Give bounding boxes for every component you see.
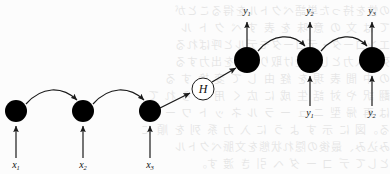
feedback-label-y2-sub: 2 — [373, 112, 377, 119]
input-label-x2-sub: 2 — [84, 164, 88, 171]
context-in-arrow — [160, 93, 190, 108]
input-label-x2: x2 — [78, 159, 87, 171]
input-labels: x1 x2 x3 — [11, 159, 154, 171]
feedback-label-y1: y1 — [305, 107, 314, 119]
context-node-label: H — [198, 82, 209, 96]
feedback-label-y2: y2 — [367, 107, 376, 119]
encoder-nodes — [5, 100, 161, 122]
encoder-node-3 — [139, 100, 161, 122]
context-node-H: H — [192, 78, 214, 100]
decoder-node-3 — [359, 47, 385, 73]
output-label-y2-sub: 2 — [311, 10, 315, 17]
feedback-label-y1-sub: 1 — [311, 112, 314, 119]
decoder-node-2 — [297, 47, 323, 73]
encoder-node-2 — [72, 100, 94, 122]
encoder-input-arrows — [16, 126, 150, 158]
decoder-node-1 — [234, 47, 260, 73]
recurrent-arrow-dec1-dec2 — [258, 37, 305, 51]
figure-canvas: の性を持った単語ベクトルを得ることが て は 文 の 意 味 を 表 す ベ ク… — [0, 0, 390, 174]
recurrent-arrow-enc2-enc3 — [93, 90, 144, 104]
recurrent-arrow-dec2-dec3 — [321, 37, 367, 51]
output-labels: y1 y2 y3 — [242, 5, 376, 17]
output-label-y1-sub: 1 — [248, 10, 251, 17]
encoder-node-1 — [5, 100, 27, 122]
seq2seq-diagram: H x1 x2 x3 y1 y2 — [0, 0, 390, 174]
feedback-labels: y1 y2 — [305, 107, 376, 119]
input-label-x3-sub: 3 — [150, 164, 155, 171]
recurrent-arrow-enc1-enc2 — [26, 90, 77, 104]
decoder-feedback-arrows — [310, 76, 372, 106]
context-out-arrow — [212, 68, 236, 82]
output-label-y1: y1 — [242, 5, 251, 17]
input-label-x1: x1 — [11, 159, 20, 171]
output-label-y2: y2 — [305, 5, 314, 17]
output-label-y3: y3 — [367, 5, 376, 17]
decoder-nodes — [234, 47, 385, 73]
output-label-y3-sub: 3 — [372, 10, 377, 17]
input-label-x3: x3 — [145, 159, 154, 171]
input-label-x1-sub: 1 — [17, 164, 20, 171]
